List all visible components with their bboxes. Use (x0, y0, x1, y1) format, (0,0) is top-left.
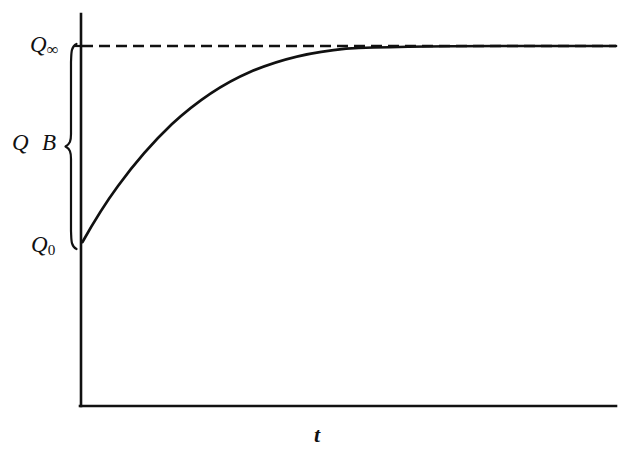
amplitude-brace-label: B (42, 131, 56, 154)
x-axis-label: t (314, 424, 320, 446)
exponential-curve (83, 46, 617, 242)
asymptote-label-subscript: ∞ (47, 40, 58, 59)
figure-canvas: Q∞ Q B Q0 t (0, 0, 625, 466)
plot-svg (0, 0, 625, 466)
initial-value-label-subscript: 0 (48, 241, 56, 258)
amplitude-brace (66, 44, 77, 249)
y-axis-label: Q (12, 131, 29, 154)
initial-value-label-base: Q (31, 232, 48, 257)
asymptote-label: Q∞ (30, 33, 58, 59)
initial-value-label: Q0 (31, 233, 55, 257)
asymptote-label-base: Q (30, 32, 47, 57)
